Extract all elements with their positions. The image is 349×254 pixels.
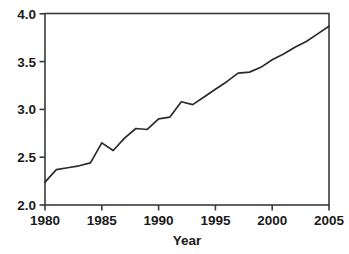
y-tick-label-3-0: 3.0 <box>17 102 36 117</box>
x-axis-ticks <box>45 205 329 211</box>
x-axis-title: Year <box>173 233 202 248</box>
y-tick-label-4-0: 4.0 <box>17 7 36 22</box>
x-axis-tick-labels: 1980 1985 1990 1995 2000 2005 <box>30 213 345 228</box>
x-tick-label-2000: 2000 <box>257 213 287 228</box>
y-tick-label-2-0: 2.0 <box>17 198 36 213</box>
y-tick-label-3-5: 3.5 <box>17 55 36 70</box>
x-tick-label-1995: 1995 <box>200 213 231 228</box>
x-tick-label-1980: 1980 <box>30 213 60 228</box>
data-series-line <box>45 26 329 182</box>
chart-canvas: 2.0 2.5 3.0 3.5 4.0 1980 1985 1990 1995 … <box>0 0 349 254</box>
x-tick-label-2005: 2005 <box>314 213 345 228</box>
y-tick-label-2-5: 2.5 <box>17 150 36 165</box>
line-chart-figure: 2.0 2.5 3.0 3.5 4.0 1980 1985 1990 1995 … <box>0 0 349 254</box>
y-axis-tick-labels: 2.0 2.5 3.0 3.5 4.0 <box>17 7 36 213</box>
y-axis-ticks <box>40 14 46 205</box>
x-tick-label-1985: 1985 <box>87 213 118 228</box>
x-tick-label-1990: 1990 <box>144 213 174 228</box>
plot-frame <box>45 14 329 206</box>
